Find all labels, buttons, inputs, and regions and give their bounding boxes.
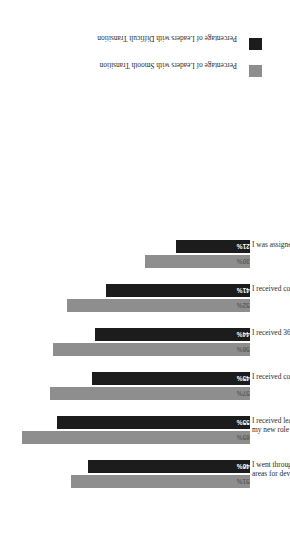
bar-value-label: 56% (236, 346, 249, 353)
category-label-cell: I received 360-degree feedback about my … (250, 328, 286, 356)
category-label: I went through a formal assessment to id… (252, 460, 290, 478)
bar-value-label: 51% (236, 478, 249, 485)
bar-group: 51%46% (4, 460, 250, 488)
category-label-cell: I was assigned a formal mentor or coach … (250, 240, 286, 268)
bar-difficult: 41% (106, 284, 250, 297)
bar-group: 52%41% (4, 284, 250, 312)
chart-legend: Percentage of Leaders with Smooth Transi… (26, 6, 266, 182)
bar-smooth: 65% (22, 431, 250, 444)
bar-groups: 51%46%65%55%57%45%56%44%52%41%30%21% (4, 188, 250, 488)
legend-item-smooth: Percentage of Leaders with Smooth Transi… (26, 64, 262, 78)
bar-difficult: 46% (88, 460, 250, 473)
bar-group: 57%45% (4, 372, 250, 400)
bar-smooth: 51% (71, 475, 250, 488)
legend-swatch-smooth (249, 65, 262, 77)
bar-group: 65%55% (4, 416, 250, 444)
bar-group: 56%44% (4, 328, 250, 356)
bar-value-label: 46% (236, 463, 249, 470)
category-axis-labels: I went through a formal assessment to id… (250, 188, 286, 488)
bar-value-label: 57% (236, 390, 249, 397)
category-label-cell: I received leadership/interpersonal trai… (250, 416, 286, 444)
bar-value-label: 65% (236, 434, 249, 441)
bar-difficult: 44% (95, 328, 250, 341)
bar-value-label: 41% (236, 287, 249, 294)
bar-difficult: 55% (57, 416, 250, 429)
bar-difficult: 21% (176, 240, 250, 253)
bar-group: 30%21% (4, 240, 250, 268)
category-label-cell: I received coaching for my leadership tr… (250, 372, 286, 400)
legend-item-difficult: Percentage of Leaders with Difficult Tra… (26, 37, 262, 51)
bar-value-label: 45% (236, 375, 249, 382)
bar-value-label: 30% (236, 258, 249, 265)
bar-smooth: 56% (53, 343, 250, 356)
category-label: I received 360-degree feedback about my … (252, 328, 290, 337)
bar-smooth: 52% (67, 299, 250, 312)
bar-smooth: 30% (145, 255, 250, 268)
category-label-cell: I received coaching for the transition f… (250, 284, 286, 312)
bar-difficult: 45% (92, 372, 250, 385)
legend-swatch-difficult (249, 38, 262, 50)
bar-value-label: 52% (236, 302, 249, 309)
category-label: I received coaching for the transition f… (252, 284, 290, 293)
category-label: I received leadership/interpersonal trai… (252, 416, 290, 434)
bar-smooth: 57% (50, 387, 250, 400)
legend-label-difficult: Percentage of Leaders with Difficult Tra… (97, 35, 237, 42)
bar-value-label: 44% (236, 331, 249, 338)
category-label: I received coaching for my leadership tr… (252, 372, 290, 381)
plot-area: 51%46%65%55%57%45%56%44%52%41%30%21% I w… (4, 188, 286, 488)
grouped-bar-chart: 51%46%65%55%57%45%56%44%52%41%30%21% I w… (0, 0, 290, 544)
bar-value-label: 21% (236, 243, 249, 250)
bar-value-label: 55% (236, 419, 249, 426)
legend-label-smooth: Percentage of Leaders with Smooth Transi… (99, 62, 236, 69)
chart-figure-rotator: 51%46%65%55%57%45%56%44%52%41%30%21% I w… (0, 0, 290, 544)
category-label: I was assigned a formal mentor or coach … (252, 240, 290, 249)
category-label-cell: I went through a formal assessment to id… (250, 460, 286, 488)
